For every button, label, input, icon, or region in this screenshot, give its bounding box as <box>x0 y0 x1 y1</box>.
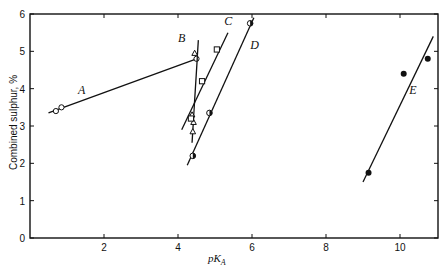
y-tick-label: 3 <box>19 121 25 132</box>
y-tick-label: 2 <box>19 158 25 169</box>
data-point <box>59 105 64 110</box>
data-point <box>192 50 198 55</box>
y-tick-label: 5 <box>19 46 25 57</box>
data-point <box>190 129 196 134</box>
data-point <box>401 71 407 77</box>
x-axis-title: pKA <box>207 252 226 267</box>
data-point <box>199 79 204 84</box>
data-point <box>214 47 219 52</box>
series-label: C <box>224 14 233 28</box>
y-axis-title: Combined sulphur, % <box>8 75 19 170</box>
series-label: B <box>178 31 186 45</box>
series-b: B <box>178 31 198 143</box>
data-point <box>366 170 372 176</box>
plot-border <box>30 14 438 238</box>
x-tick-label: 8 <box>323 242 329 253</box>
series-e: E <box>363 36 433 182</box>
x-tick-label: 4 <box>175 242 181 253</box>
x-tick-label: 2 <box>101 242 107 253</box>
chart: 2468100123456 ABCDE Combined sulphur, % … <box>0 0 445 273</box>
x-tick-label: 10 <box>394 242 406 253</box>
series-d: D <box>187 18 259 165</box>
data-point <box>53 108 58 113</box>
series-label: D <box>249 38 259 52</box>
fit-line <box>49 59 197 113</box>
data-point <box>425 56 431 62</box>
y-tick-label: 4 <box>19 84 25 95</box>
series-layer: ABCDE <box>49 14 434 182</box>
y-tick-label: 1 <box>19 196 25 207</box>
series-label: A <box>77 83 86 97</box>
y-tick-label: 6 <box>19 9 25 20</box>
y-tick-label: 0 <box>19 233 25 244</box>
fit-line <box>187 18 254 165</box>
fit-line <box>363 36 433 182</box>
data-point <box>188 116 193 121</box>
series-a: A <box>49 56 200 113</box>
x-tick-label: 6 <box>249 242 255 253</box>
plot-frame <box>30 14 438 238</box>
series-label: E <box>408 83 417 97</box>
axis-ticks: 2468100123456 <box>19 9 438 253</box>
